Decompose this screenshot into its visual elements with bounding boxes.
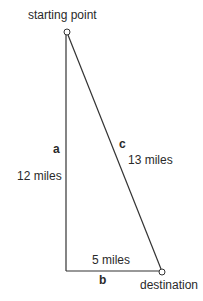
- side-b-letter: b: [99, 273, 106, 287]
- side-b-length: 5 miles: [92, 253, 130, 267]
- side-c-length: 13 miles: [128, 153, 173, 167]
- side-a-letter: a: [53, 142, 60, 156]
- destination-label: destination: [140, 278, 198, 292]
- side-c-line: [68, 35, 161, 269]
- triangle-diagram: starting point a 12 miles c 13 miles 5 m…: [0, 0, 203, 301]
- side-a-length: 12 miles: [17, 169, 62, 183]
- starting-point-marker-icon: [64, 29, 70, 35]
- starting-point-label: starting point: [28, 8, 97, 22]
- destination-marker-icon: [159, 269, 165, 275]
- side-c-letter: c: [119, 137, 126, 151]
